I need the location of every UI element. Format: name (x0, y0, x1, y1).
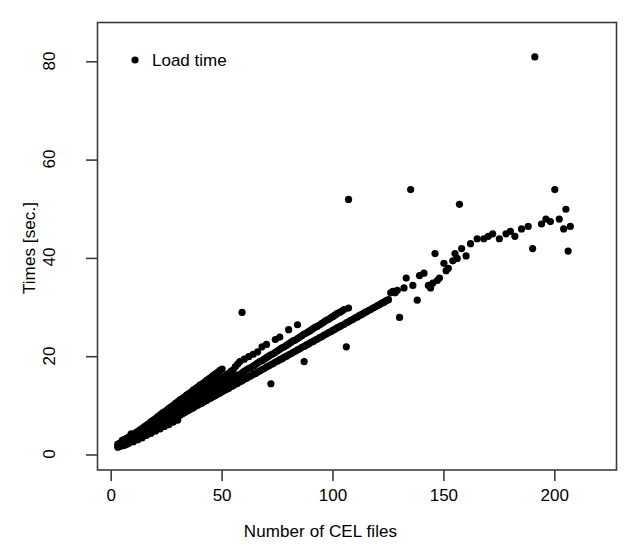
data-point (531, 53, 538, 60)
data-point (518, 225, 525, 232)
x-axis-title: Number of CEL files (0, 522, 641, 542)
y-axis-ticks (86, 62, 97, 455)
data-point (420, 270, 427, 277)
data-point (407, 186, 414, 193)
data-point (560, 225, 567, 232)
data-point (267, 380, 274, 387)
y-tick-label: 0 (40, 424, 60, 484)
data-point (276, 333, 283, 340)
data-points-layer (114, 53, 574, 450)
data-point (414, 297, 421, 304)
data-point (529, 245, 536, 252)
data-point (525, 223, 532, 230)
legend-entry-label: Load time (152, 51, 227, 71)
data-point (562, 206, 569, 213)
data-point (345, 196, 352, 203)
data-point (301, 358, 308, 365)
data-point (474, 235, 481, 242)
x-tick-label: 150 (414, 486, 474, 506)
data-point (467, 240, 474, 247)
data-point (403, 274, 410, 281)
x-axis-ticks (111, 470, 555, 481)
data-point (294, 321, 301, 328)
data-point (445, 265, 452, 272)
data-point (409, 282, 416, 289)
data-point (567, 223, 574, 230)
data-point (345, 304, 352, 311)
data-point (436, 274, 443, 281)
y-tick-label: 20 (40, 326, 60, 386)
data-point (462, 252, 469, 259)
data-point (343, 343, 350, 350)
plot-canvas (0, 0, 641, 559)
data-point (394, 287, 401, 294)
x-tick-label: 200 (525, 486, 585, 506)
data-point (454, 255, 461, 262)
data-point (396, 314, 403, 321)
x-tick-label: 50 (192, 486, 252, 506)
data-point (285, 326, 292, 333)
y-tick-label: 40 (40, 227, 60, 287)
x-tick-label: 0 (81, 486, 141, 506)
data-point (547, 218, 554, 225)
data-point (458, 245, 465, 252)
y-tick-label: 80 (40, 31, 60, 91)
data-point (431, 250, 438, 257)
legend-marker (131, 56, 138, 63)
data-point (511, 233, 518, 240)
x-tick-label: 100 (303, 486, 363, 506)
data-point (263, 341, 270, 348)
data-point (551, 186, 558, 193)
y-axis-title: Times [sec.] (20, 128, 40, 368)
data-point (496, 235, 503, 242)
data-point (238, 309, 245, 316)
scatter-plot-figure: Load time Number of CEL files Times [sec… (0, 0, 641, 559)
data-point (556, 215, 563, 222)
data-point (456, 201, 463, 208)
data-point (400, 284, 407, 291)
data-point (219, 365, 226, 372)
data-point (489, 230, 496, 237)
data-point (385, 296, 392, 303)
y-tick-label: 60 (40, 129, 60, 189)
data-point (565, 247, 572, 254)
